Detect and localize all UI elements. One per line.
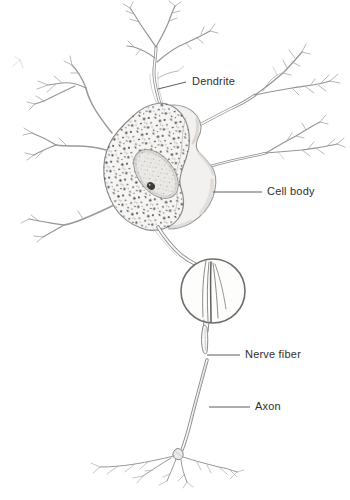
dendrite-lower-left (21, 204, 116, 242)
axon-hillock (153, 227, 197, 265)
dendrite-middle-left (23, 128, 106, 160)
nerve-fiber-label: Nerve fiber (245, 348, 301, 360)
dendrite-label: Dendrite (192, 75, 235, 87)
neuron-illustration (0, 0, 350, 500)
dendrite-tree-lower-right (211, 115, 345, 166)
terminal-branches (91, 449, 244, 488)
nerve-fiber-segment (202, 325, 208, 354)
axon-path (179, 360, 207, 455)
nerve-fiber-inset-circle (181, 259, 245, 332)
figure-canvas: Dendrite Cell body Nerve fiber Axon (0, 0, 350, 500)
axon-label: Axon (255, 400, 281, 412)
dendrite-tree-upper-left (13, 56, 112, 133)
dendrite-leader-line (158, 82, 186, 89)
cell-body-shape (104, 103, 216, 230)
cell-body-label: Cell body (267, 185, 315, 197)
dendrite-tree-top (123, 1, 218, 104)
terminal-knot (173, 449, 183, 460)
